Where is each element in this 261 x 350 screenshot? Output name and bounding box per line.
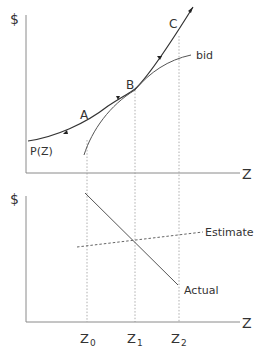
top-panel: $ Z A B C P(Z) bid [10, 7, 252, 322]
actual-line [85, 193, 178, 285]
bottom-y-axis-label: $ [10, 191, 19, 207]
tick-z1-base: Z [127, 331, 136, 346]
tick-z1-sub: 1 [137, 338, 143, 348]
tick-z2-base: Z [171, 331, 180, 346]
top-x-axis-label: Z [242, 166, 252, 182]
bid-curve [84, 55, 191, 155]
tick-z2: Z 2 [171, 331, 187, 348]
point-c-label: C [169, 17, 177, 31]
tick-z0-sub: 0 [90, 338, 96, 348]
pz-arrowhead-icon [188, 7, 193, 13]
bid-curve-label: bid [196, 49, 213, 62]
estimate-line [77, 232, 203, 247]
point-a-label: A [80, 108, 89, 122]
pz-curve-label: P(Z) [30, 145, 53, 158]
top-y-axis-label: $ [10, 11, 19, 27]
bottom-x-axis-label: Z [242, 315, 252, 331]
tick-z2-sub: 2 [181, 338, 187, 348]
point-b-label: B [126, 78, 134, 92]
tick-z1: Z 1 [127, 331, 143, 348]
diagram-svg: $ Z A B C P(Z) bid [0, 0, 261, 350]
bottom-panel: $ Z Estimate Actual Z 0 Z 1 Z 2 [10, 191, 254, 348]
estimate-label: Estimate [205, 226, 254, 239]
diagram-canvas: $ Z A B C P(Z) bid [0, 0, 261, 350]
actual-label: Actual [184, 284, 218, 297]
tick-z0: Z 0 [80, 331, 96, 348]
tick-z0-base: Z [80, 331, 89, 346]
